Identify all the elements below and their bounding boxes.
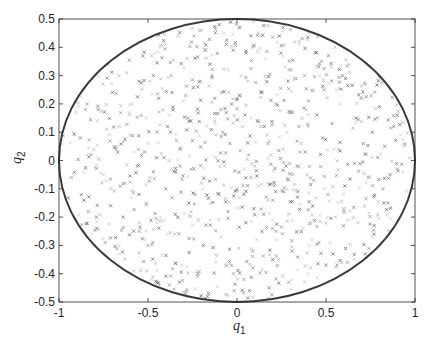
y-tick-label: 0.1 [38,125,55,139]
y-axis-label-symbol: q [9,157,24,164]
y-tick-label: -0.1 [34,182,55,196]
y-tick-label: -0.5 [34,295,55,309]
y-tick-label: -0.4 [34,267,55,281]
x-tick-label: 0.5 [318,306,335,320]
x-axis-label-subscript: 1 [240,325,246,336]
y-tick-label: 0.3 [38,69,55,83]
y-tick-label: -0.3 [34,238,55,252]
y-tick-label: 0.2 [38,97,55,111]
y-axis-label-subscript: 2 [16,151,27,157]
x-tick-label: -1 [54,306,65,320]
y-tick-label: 0.5 [38,12,55,26]
y-tick-label: 0 [48,154,55,168]
x-tick-label: -0.5 [138,306,159,320]
scatter-chart: -1-0.500.51 -0.5-0.4-0.3-0.2-0.100.10.20… [0,0,436,349]
y-tick-label: -0.2 [34,210,55,224]
y-tick-label: 0.4 [38,40,55,54]
x-tick-label: 1 [412,306,419,320]
x-axis-label-symbol: q [233,318,240,333]
